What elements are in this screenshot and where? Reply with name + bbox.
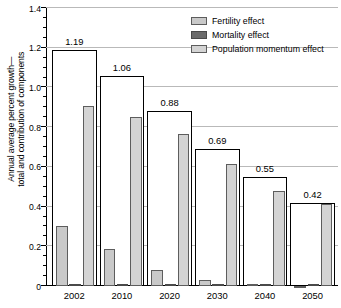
component-bar: [273, 191, 285, 286]
bar-group: [100, 8, 145, 286]
y-axis-minor-tick: [43, 37, 46, 38]
legend-item-fertility: Fertility effect: [191, 14, 324, 27]
legend-label-fertility: Fertility effect: [212, 16, 264, 26]
component-bar: [104, 249, 116, 286]
y-axis-minor-tick: [43, 255, 46, 256]
chart-root: Annual average percent growth— total and…: [0, 0, 341, 308]
y-axis-tick-label: 0.2: [1, 242, 41, 252]
total-value-label: 0.88: [147, 97, 192, 108]
legend-swatch-fertility: [191, 17, 207, 25]
legend-label-momentum: Population momentum effect: [212, 44, 324, 54]
y-axis-tick: [41, 166, 46, 167]
x-axis-tick-label: 2010: [96, 290, 149, 301]
component-bar: [56, 226, 68, 286]
bar-group: [52, 8, 97, 286]
component-bar: [308, 284, 320, 286]
y-axis-tick-label: 1.2: [1, 43, 41, 53]
y-axis-tick-label: 0.8: [1, 123, 41, 133]
y-axis-tick-label: 0.4: [1, 202, 41, 212]
total-value-label: 0.55: [243, 163, 288, 174]
y-axis-minor-tick: [43, 235, 46, 236]
x-axis-tick-label: 2040: [239, 290, 292, 301]
y-axis-tick: [41, 285, 46, 286]
legend-swatch-mortality: [191, 31, 207, 39]
y-axis-tick-label: 0: [1, 282, 41, 292]
total-value-label: 0.69: [195, 135, 240, 146]
y-axis-minor-tick: [43, 196, 46, 197]
x-axis-tick-label: 2020: [143, 290, 196, 301]
y-axis-tick-label: 1.4: [1, 4, 41, 14]
component-bar: [83, 106, 95, 286]
y-axis-minor-tick: [43, 106, 46, 107]
y-axis-tick: [41, 245, 46, 246]
y-axis-line: [46, 8, 47, 286]
y-axis-tick: [41, 206, 46, 207]
y-axis-minor-tick: [43, 57, 46, 58]
y-axis-minor-tick: [43, 186, 46, 187]
total-value-label: 0.42: [290, 189, 335, 200]
component-bar: [199, 280, 211, 286]
bar-group: [147, 8, 192, 286]
component-bar: [165, 284, 177, 286]
component-bar: [212, 284, 224, 286]
y-axis-minor-tick: [43, 275, 46, 276]
y-axis-minor-tick: [43, 77, 46, 78]
x-axis-tick-label: 2002: [48, 290, 101, 301]
component-bar: [294, 286, 306, 288]
component-bar: [130, 117, 142, 286]
component-bar: [260, 284, 272, 286]
legend-item-momentum: Population momentum effect: [191, 42, 324, 55]
y-axis-tick-label: 1.0: [1, 83, 41, 93]
x-axis-tick-label: 2030: [191, 290, 244, 301]
y-axis-minor-tick: [43, 67, 46, 68]
component-bar: [226, 164, 238, 286]
y-axis-minor-tick: [43, 225, 46, 226]
y-axis-minor-tick: [43, 265, 46, 266]
component-bar: [117, 284, 129, 286]
component-bar: [69, 284, 81, 286]
y-axis-minor-tick: [43, 146, 46, 147]
chart-legend: Fertility effect Mortality effect Popula…: [191, 14, 324, 56]
x-axis-tick-label: 2050: [286, 290, 339, 301]
component-bar: [151, 270, 163, 286]
total-value-label: 1.19: [52, 36, 97, 47]
y-axis-minor-tick: [43, 176, 46, 177]
total-value-label: 1.06: [100, 62, 145, 73]
y-axis-minor-tick: [43, 116, 46, 117]
y-axis-tick: [41, 86, 46, 87]
legend-swatch-momentum: [191, 45, 207, 53]
y-axis-minor-tick: [43, 136, 46, 137]
component-bar: [247, 284, 259, 286]
component-bar: [178, 134, 190, 286]
legend-label-mortality: Mortality effect: [212, 30, 269, 40]
y-axis-minor-tick: [43, 216, 46, 217]
y-axis-tick: [41, 47, 46, 48]
y-axis-tick-label: 0.6: [1, 162, 41, 172]
legend-item-mortality: Mortality effect: [191, 28, 324, 41]
y-axis-minor-tick: [43, 17, 46, 18]
y-axis-minor-tick: [43, 27, 46, 28]
component-bar: [321, 204, 333, 286]
y-axis-minor-tick: [43, 156, 46, 157]
y-axis-tick: [41, 7, 46, 8]
y-axis-minor-tick: [43, 96, 46, 97]
y-axis-tick: [41, 126, 46, 127]
